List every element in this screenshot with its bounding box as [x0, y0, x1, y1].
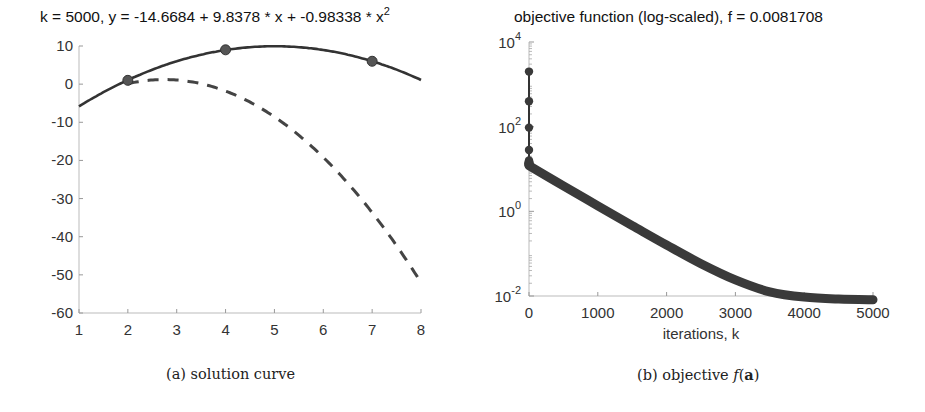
y-tick-label: 0	[65, 75, 73, 92]
initial-iterate-marker	[525, 97, 533, 105]
x-tick-label: 4000	[788, 304, 821, 321]
chart-objective-function: objective function (log-scaled), f = 0.0…	[470, 0, 925, 360]
y-tick-label: -10	[51, 113, 73, 130]
chart-title: objective function (log-scaled), f = 0.0…	[514, 8, 823, 25]
x-tick-label: 1	[75, 321, 83, 338]
x-tick-label: 5000	[856, 304, 889, 321]
initial-iterate-marker	[525, 146, 533, 154]
x-tick-label: 0	[525, 304, 533, 321]
x-tick-label: 7	[368, 321, 376, 338]
y-tick-label: -60	[51, 304, 73, 321]
caption-b-prefix: (b) objective	[637, 367, 733, 383]
objective-function-plot: objective function (log-scaled), f = 0.0…	[470, 0, 925, 360]
x-tick-label: 2	[124, 321, 132, 338]
caption-b-close: )	[754, 367, 760, 383]
x-tick-label: 8	[417, 321, 425, 338]
x-tick-label: 3	[173, 321, 181, 338]
solution-curve-plot: k = 5000, y = -14.6684 + 9.8378 * x + -0…	[0, 0, 470, 360]
y-tick-label: 102	[498, 115, 521, 136]
data-point	[367, 56, 377, 66]
x-tick-label: 3000	[719, 304, 752, 321]
iterate-marker	[524, 159, 534, 169]
y-tick-label: -40	[51, 228, 73, 245]
x-axis-label: iterations, k	[663, 325, 740, 342]
caption-a: (a) solution curve	[166, 366, 295, 382]
caption-b-bold-a: a	[744, 366, 753, 383]
y-tick-label: -30	[51, 190, 73, 207]
initial-iterate-marker	[525, 123, 533, 131]
chart-title: k = 5000, y = -14.6684 + 9.8378 * x + -0…	[40, 5, 390, 25]
y-tick-label: 10	[56, 37, 73, 54]
y-tick-label: 10-2	[495, 284, 521, 305]
x-tick-label: 2000	[650, 304, 683, 321]
initial-curve-line	[128, 80, 421, 283]
data-point	[221, 45, 231, 55]
x-tick-label: 4	[221, 321, 229, 338]
x-tick-label: 6	[319, 321, 327, 338]
y-tick-label: 100	[498, 199, 521, 220]
data-point	[123, 75, 133, 85]
x-tick-label: 5	[270, 321, 278, 338]
y-tick-label: 104	[498, 30, 521, 51]
initial-iterate-marker	[525, 67, 533, 75]
chart-solution-curve: k = 5000, y = -14.6684 + 9.8378 * x + -0…	[0, 0, 470, 360]
y-tick-label: -20	[51, 151, 73, 168]
objective-iterates-band	[529, 166, 873, 300]
x-tick-label: 1000	[581, 304, 614, 321]
caption-b: (b) objective f(a)	[637, 366, 759, 383]
y-tick-label: -50	[51, 266, 73, 283]
